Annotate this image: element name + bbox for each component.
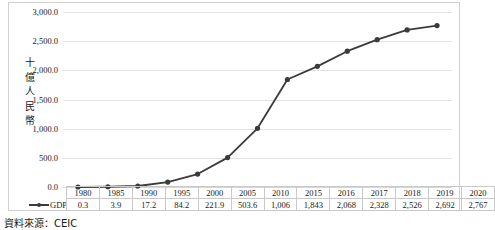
source-caption: 資料來源：CEIC	[4, 215, 77, 230]
table-value-cell-2005: 503.6	[231, 199, 264, 211]
chart-data-table: 1980198519901995200020052010201520162017…	[28, 186, 495, 211]
table-header-cell-2016: 2016	[330, 187, 363, 199]
data-point-marker	[255, 126, 260, 131]
y-axis-tick-label: 1,000.0	[33, 124, 59, 134]
y-axis-tick-label: 3,000.0	[33, 7, 59, 17]
data-point-marker	[375, 37, 380, 42]
table-header-cell-2015: 2015	[297, 187, 330, 199]
data-point-marker	[195, 171, 200, 176]
table-header-cell-2005: 2005	[231, 187, 264, 199]
plot-area: 0.0500.01,000.01,500.02,000.02,500.03,00…	[63, 12, 452, 187]
table-header-cell-2000: 2000	[198, 187, 231, 199]
legend-gdp-label: GDP	[50, 200, 67, 210]
table-row-gdp: GDP 0.33.917.284.2221.9503.61,0061,8432,…	[28, 199, 494, 211]
data-point-marker	[434, 23, 439, 28]
table-header-cell-2017: 2017	[363, 187, 396, 199]
data-point-marker	[285, 77, 290, 82]
y-axis-tick-label: 2,500.0	[33, 36, 59, 46]
series-line-gdp	[63, 12, 452, 187]
table-header-cell-1995: 1995	[165, 187, 198, 199]
table-header-cell-1985: 1985	[99, 187, 132, 199]
table-value-cell-1990: 17.2	[132, 199, 165, 211]
data-point-marker	[165, 179, 170, 184]
data-point-marker	[345, 49, 350, 54]
data-point-marker	[405, 27, 410, 32]
table-value-cell-2010: 1,006	[264, 199, 297, 211]
table-value-cell-2015: 1,843	[297, 199, 330, 211]
table-header-cell-2019: 2019	[429, 187, 462, 199]
table-row-header: 1980198519901995200020052010201520162017…	[28, 187, 494, 199]
data-point-marker	[315, 64, 320, 69]
table-header-cell-2018: 2018	[396, 187, 429, 199]
table-header-cell-2010: 2010	[264, 187, 297, 199]
data-point-marker	[225, 155, 230, 160]
table-header-cell-1980: 1980	[67, 187, 100, 199]
table-value-cell-2000: 221.9	[198, 199, 231, 211]
y-axis-tick-label: 500.0	[39, 153, 58, 163]
table-value-cell-2019: 2,692	[429, 199, 462, 211]
legend-line-marker-icon	[29, 200, 49, 209]
table-value-cell-2016: 2,068	[330, 199, 363, 211]
series-polyline	[78, 26, 437, 187]
table-value-cell-1985: 3.9	[99, 199, 132, 211]
table-header-cell-2020: 2020	[462, 187, 495, 199]
table-header-cell-1990: 1990	[132, 187, 165, 199]
y-axis-tick-label: 2,000.0	[33, 65, 59, 75]
table-value-cell-2020: 2,767	[462, 199, 495, 211]
table-value-cell-1995: 84.2	[165, 199, 198, 211]
table-value-cell-1980: 0.3	[67, 199, 100, 211]
legend-gdp: GDP	[28, 199, 67, 211]
table-value-cell-2018: 2,526	[396, 199, 429, 211]
table-value-cell-2017: 2,328	[363, 199, 396, 211]
table-corner-cell	[28, 187, 67, 199]
y-axis-tick-label: 1,500.0	[33, 95, 59, 105]
